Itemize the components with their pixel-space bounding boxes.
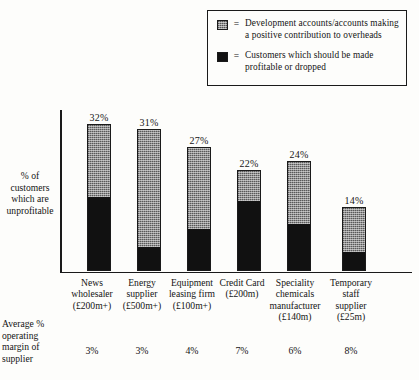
stacked-bar[interactable]: 27% xyxy=(187,147,211,271)
legend-label-unprofitable-customers: Customers which should be made profitabl… xyxy=(245,50,400,73)
y-axis-label: % of customers which are unprofitable xyxy=(2,170,58,216)
bar-column[interactable]: 24% xyxy=(287,161,311,271)
bar-column[interactable]: 31% xyxy=(137,129,161,272)
bar-segment-unprofitable-customers[interactable] xyxy=(288,224,310,270)
category-label-line: staff xyxy=(320,288,382,299)
margin-value: 6% xyxy=(264,345,326,356)
chart-plot-area: 32%31%27%22%24%14% xyxy=(60,110,412,273)
category-label-line: (£140m) xyxy=(264,311,326,322)
margin-value: 8% xyxy=(320,345,382,356)
bar-total-label: 22% xyxy=(240,158,259,169)
bar-total-label: 24% xyxy=(290,149,309,160)
bar-column[interactable]: 14% xyxy=(342,207,366,271)
y-axis-line xyxy=(60,110,62,273)
x-axis-line xyxy=(60,272,412,274)
category-label-line: Speciality xyxy=(264,277,326,288)
bar-total-label: 31% xyxy=(140,117,159,128)
stacked-bar[interactable]: 24% xyxy=(287,161,311,271)
bar-column[interactable]: 22% xyxy=(237,170,261,271)
category-label-line: Temporary xyxy=(320,277,382,288)
stacked-bar[interactable]: 32% xyxy=(87,124,111,271)
x-axis-category-label: Specialitychemicalsmanufacturer(£140m) xyxy=(264,277,326,323)
bar-total-label: 27% xyxy=(190,135,209,146)
category-label-line: chemicals xyxy=(264,288,326,299)
black-swatch-icon xyxy=(217,52,228,62)
bar-segment-development-accounts[interactable] xyxy=(288,162,310,224)
legend-equals-sign-2: = xyxy=(228,50,245,62)
bar-segment-unprofitable-customers[interactable] xyxy=(238,201,260,270)
legend-item-unprofitable-customers: = Customers which should be made profita… xyxy=(217,50,400,73)
category-label-line: (£25m) xyxy=(320,311,382,322)
stacked-bar[interactable]: 22% xyxy=(237,170,261,271)
bar-segment-development-accounts[interactable] xyxy=(238,171,260,201)
margin-row-label: Average % operating margin of supplier xyxy=(2,318,60,364)
bar-segment-development-accounts[interactable] xyxy=(188,148,210,229)
bar-segment-development-accounts[interactable] xyxy=(88,125,110,197)
bar-total-label: 14% xyxy=(345,195,364,206)
stacked-bar[interactable]: 31% xyxy=(137,129,161,272)
category-label-line: supplier xyxy=(320,300,382,311)
x-axis-category-label: Temporarystaffsupplier(£25m) xyxy=(320,277,382,323)
legend-box: = Development accounts/accounts making a… xyxy=(207,10,407,86)
legend-equals-sign: = xyxy=(228,18,245,30)
bar-total-label: 32% xyxy=(90,112,109,123)
bar-segment-unprofitable-customers[interactable] xyxy=(88,197,110,271)
bar-segment-development-accounts[interactable] xyxy=(138,130,160,248)
category-label-line: (£100m+) xyxy=(161,300,223,311)
bar-column[interactable]: 32% xyxy=(87,124,111,271)
grey-swatch-icon xyxy=(217,20,228,30)
legend-label-development-accounts: Development accounts/accounts making a p… xyxy=(245,18,400,41)
bar-segment-unprofitable-customers[interactable] xyxy=(343,252,365,270)
legend-item-development-accounts: = Development accounts/accounts making a… xyxy=(217,18,400,41)
category-label-line: manufacturer xyxy=(264,300,326,311)
bar-segment-unprofitable-customers[interactable] xyxy=(188,229,210,270)
bar-column[interactable]: 27% xyxy=(187,147,211,271)
stacked-bar[interactable]: 14% xyxy=(342,207,366,271)
bar-segment-development-accounts[interactable] xyxy=(343,208,365,252)
bar-segment-unprofitable-customers[interactable] xyxy=(138,247,160,270)
